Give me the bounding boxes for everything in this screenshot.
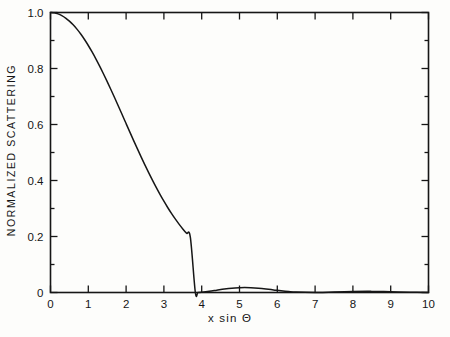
x-tick-label: 2 (123, 298, 129, 310)
y-axis-ticks-right (422, 13, 429, 293)
x-tick-label: 9 (387, 298, 393, 310)
x-axis-tick-labels: 012345678910 (47, 298, 435, 310)
x-tick-label: 4 (198, 298, 205, 310)
x-axis-ticks-top (51, 13, 429, 20)
data-curve-group (51, 13, 429, 297)
x-tick-label: 8 (350, 298, 356, 310)
y-tick-label: 1.0 (28, 7, 44, 19)
y-tick-label: 0.8 (28, 63, 44, 75)
x-tick-label: 5 (236, 298, 242, 310)
y-tick-label: 0.6 (28, 119, 44, 131)
x-tick-label: 7 (312, 298, 318, 310)
y-tick-label: 0.4 (28, 175, 45, 187)
x-tick-label: 0 (47, 298, 53, 310)
x-tick-label: 10 (422, 298, 435, 310)
x-tick-label: 6 (274, 298, 280, 310)
y-tick-label: 0.2 (28, 231, 44, 243)
plot-frame-rect (51, 13, 429, 293)
y-axis-tick-labels: 00.20.40.60.81.0 (28, 7, 45, 299)
x-tick-label: 1 (85, 298, 91, 310)
y-axis-ticks-left (51, 13, 58, 293)
plot-svg: 012345678910 00.20.40.60.81.0 (0, 0, 450, 337)
plot-frame (51, 13, 429, 293)
data-curve-airy (51, 13, 429, 297)
figure-panel: NORMALIZED SCATTERING x sin Θ 0123456789… (0, 0, 450, 337)
x-tick-label: 3 (161, 298, 167, 310)
y-tick-label: 0 (37, 287, 43, 299)
